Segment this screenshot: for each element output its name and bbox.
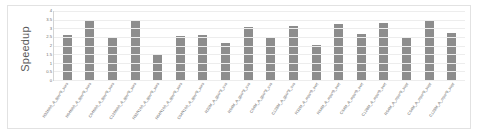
bar[interactable] xyxy=(108,38,117,80)
bar[interactable] xyxy=(266,37,275,80)
plot-area xyxy=(53,11,465,81)
chart-plot-wrapper: Speedup 00.511.522.533.54 R32N60_A_gpu*8… xyxy=(8,6,470,128)
gridline xyxy=(54,37,465,38)
y-tick-label: 1.5 xyxy=(46,53,52,57)
gridline xyxy=(54,80,465,81)
bar[interactable] xyxy=(176,36,185,80)
bar[interactable] xyxy=(221,43,230,80)
gridline xyxy=(54,20,465,21)
bar[interactable] xyxy=(153,54,162,80)
screenshot-root: Speedup 00.511.522.533.54 R32N60_A_gpu*8… xyxy=(0,0,478,135)
y-tick-label: 2.5 xyxy=(46,35,52,39)
bar[interactable] xyxy=(63,35,72,80)
bar[interactable] xyxy=(357,34,366,80)
y-tick-label: 0 xyxy=(50,79,52,83)
bar[interactable] xyxy=(447,33,456,80)
y-axis-tick-labels: 00.511.522.533.54 xyxy=(34,11,52,81)
x-label-slot: C128M_A_mps*8_supt xyxy=(440,82,463,128)
bar[interactable] xyxy=(198,35,207,80)
bar[interactable] xyxy=(402,38,411,80)
gridline xyxy=(54,63,465,64)
y-tick-label: 3 xyxy=(50,26,52,30)
gridline xyxy=(54,46,465,47)
y-axis-title: Speedup xyxy=(16,10,34,88)
gridline xyxy=(54,71,465,72)
y-axis-title-label: Speedup xyxy=(19,26,31,71)
gridline xyxy=(54,11,465,12)
y-tick-label: 4 xyxy=(50,9,52,13)
gridline xyxy=(54,54,465,55)
y-tick-label: 0.5 xyxy=(46,70,52,74)
x-axis-category-labels: R32N60_A_gpu*8_sursR64N60_A_gpu*8_sursC6… xyxy=(53,82,465,128)
y-tick-label: 1 xyxy=(50,61,52,65)
gridline xyxy=(54,28,465,29)
y-tick-label: 3.5 xyxy=(46,18,52,22)
y-tick-label: 2 xyxy=(50,44,52,48)
chart-object-frame[interactable]: Speedup 00.511.522.533.54 R32N60_A_gpu*8… xyxy=(7,5,471,129)
